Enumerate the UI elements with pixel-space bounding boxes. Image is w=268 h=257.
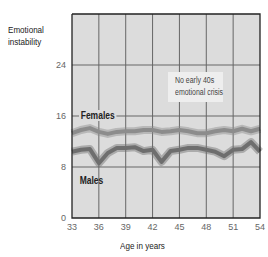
annotation-box: No early 40s emotional crisis [168, 72, 223, 102]
y-axis-label-line1: Emotional [8, 24, 44, 36]
x-tick-label: 48 [201, 222, 211, 232]
y-tick-label: 8 [61, 162, 66, 172]
y-tick-label: 24 [56, 60, 66, 70]
annotation-line2: emotional crisis [175, 86, 214, 98]
x-tick-label: 54 [255, 222, 265, 232]
females-label: Females [79, 110, 116, 121]
annotation-line1: No early 40s [175, 74, 214, 86]
y-axis-label: Emotional instability [8, 24, 44, 48]
x-tick-label: 39 [121, 222, 131, 232]
x-tick-label: 51 [228, 222, 238, 232]
y-axis-label-line2: instability [8, 36, 44, 48]
x-tick-label: 42 [148, 222, 158, 232]
y-tick-label: 0 [61, 213, 66, 223]
males-label: Males [78, 175, 105, 186]
x-tick-label: 36 [94, 222, 104, 232]
x-tick-label: 45 [174, 222, 184, 232]
y-tick-label: 16 [56, 111, 66, 121]
x-axis-label: Age in years [120, 240, 165, 251]
x-tick-label: 33 [67, 222, 77, 232]
